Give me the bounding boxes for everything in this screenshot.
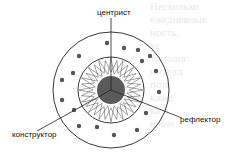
label-centrist: центрист [97,8,131,17]
sociogram-diagram: Несколькоежедневные ность,ус типологинте… [0,0,230,162]
label-constructor: конструктор [12,130,57,139]
label-reflector: рефлектор [180,115,220,124]
pointer-line-left [37,90,111,131]
